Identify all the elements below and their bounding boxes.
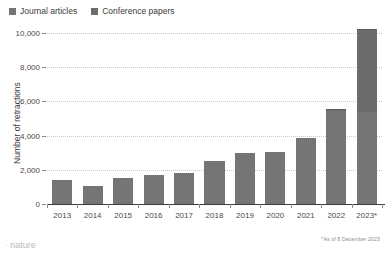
x-axis-tick-mark [291,204,292,208]
bar[interactable] [357,29,377,204]
x-axis-tick-mark [321,204,322,208]
bar[interactable] [113,178,133,204]
bar[interactable] [235,153,255,204]
bar-series-group [47,0,382,204]
x-axis-tick-label: 2015 [114,211,132,220]
bar[interactable] [265,152,285,204]
brand-mark-icon: · [6,242,8,249]
y-axis-tick-mark [42,101,46,102]
x-axis-tick-label: 2014 [84,211,102,220]
bar-segment-journal-articles [296,138,316,204]
bar-segment-journal-articles [144,175,164,204]
chart-footnote: *As of 8 December 2023 [321,236,380,242]
bar-segment-journal-articles [204,161,224,204]
bar-segment-journal-articles [235,153,255,204]
y-axis-tick-mark [42,33,46,34]
bar[interactable] [296,138,316,204]
y-axis-tick-label: 6,000 [20,97,40,106]
x-axis-tick-label: 2022 [327,211,345,220]
brand-name: nature [10,240,36,250]
x-axis-tick-mark [77,204,78,208]
x-axis-tick-label: 2020 [267,211,285,220]
bar[interactable] [204,161,224,204]
x-axis-tick-mark [138,204,139,208]
x-axis-tick-label: 2013 [53,211,71,220]
bar[interactable] [326,109,346,204]
bar-segment-journal-articles [174,173,194,204]
bar-segment-journal-articles [357,112,377,204]
y-axis-tick-mark [42,170,46,171]
bar-segment-journal-articles [326,111,346,204]
x-axis-tick-label: 2018 [206,211,224,220]
x-axis-tick-label: 2017 [175,211,193,220]
x-axis-tick-mark [382,204,383,208]
y-axis-tick-label: 4,000 [20,131,40,140]
y-axis-tick-mark [42,67,46,68]
x-axis-tick-label: 2023* [356,211,377,220]
bar[interactable] [52,180,72,204]
y-axis-tick-label: 2,000 [20,165,40,174]
x-axis-tick-mark [352,204,353,208]
bar-segment-journal-articles [83,186,103,204]
y-axis-tick-label: 0 [36,200,40,209]
x-axis-tick-mark [47,204,48,208]
bar-segment-journal-articles [113,178,133,204]
y-axis-tick-mark [42,204,46,205]
x-axis-tick-mark [169,204,170,208]
bar[interactable] [144,175,164,204]
bar[interactable] [174,173,194,204]
x-axis: 2013201420152016201720182019202020212022… [47,204,382,224]
x-axis-tick-mark [260,204,261,208]
bar[interactable] [83,186,103,204]
x-axis-tick-label: 2016 [145,211,163,220]
y-axis-tick-label: 10,000 [16,29,40,38]
x-axis-tick-mark [108,204,109,208]
bar-segment-journal-articles [52,180,72,204]
retractions-bar-chart: Number of retractions 02,0004,0006,0008,… [0,0,386,262]
x-axis-tick-label: 2021 [297,211,315,220]
x-axis-tick-mark [199,204,200,208]
x-axis-tick-label: 2019 [236,211,254,220]
bar-segment-conference-papers [357,29,377,112]
x-axis-tick-mark [230,204,231,208]
y-axis: 02,0004,0006,0008,00010,000 [0,0,40,262]
bar-segment-journal-articles [265,152,285,204]
y-axis-tick-label: 8,000 [20,63,40,72]
y-axis-tick-mark [42,136,46,137]
nature-brand-logo: · nature [6,240,36,250]
